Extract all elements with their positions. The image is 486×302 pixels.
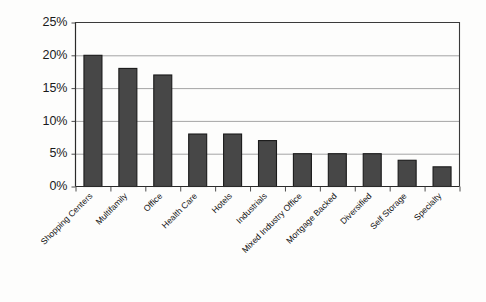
bar bbox=[84, 55, 102, 186]
bar bbox=[259, 141, 277, 187]
bar-chart: 0%5%10%15%20%25% Shopping CentersMultifa… bbox=[0, 0, 486, 302]
bar bbox=[363, 154, 381, 187]
chart-background bbox=[0, 0, 486, 302]
bar bbox=[119, 68, 137, 186]
bar bbox=[328, 154, 346, 187]
y-tick-label: 25% bbox=[42, 15, 67, 29]
bar bbox=[154, 75, 172, 187]
y-tick-label: 20% bbox=[42, 48, 67, 62]
y-tick-label: 0% bbox=[49, 179, 67, 193]
bar bbox=[398, 160, 416, 186]
bar bbox=[189, 134, 207, 186]
bar bbox=[293, 154, 311, 187]
y-tick-label: 5% bbox=[49, 146, 67, 160]
y-tick-label: 10% bbox=[42, 114, 67, 128]
bar bbox=[433, 167, 451, 187]
y-tick-label: 15% bbox=[42, 81, 67, 95]
chart-canvas: 0%5%10%15%20%25% Shopping CentersMultifa… bbox=[0, 0, 486, 302]
bar bbox=[224, 134, 242, 186]
